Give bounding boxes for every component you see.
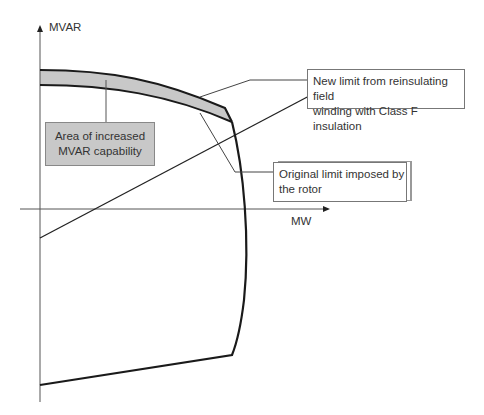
original-limit-callout: Original limit imposed by the rotor <box>273 162 407 202</box>
area-callout-line2: MVAR capability <box>46 144 154 159</box>
original-limit-callout-line1: Original limit imposed by <box>279 167 406 182</box>
y-axis-label: MVAR <box>49 20 81 34</box>
new-limit-leader-line <box>200 80 307 97</box>
area-callout-line1: Area of increased <box>46 129 154 144</box>
original-limit-callout-line2: the rotor <box>279 182 406 197</box>
capability-diagram <box>0 0 484 415</box>
new-limit-callout: New limit from reinsulating field windin… <box>307 69 465 109</box>
x-axis-arrow-icon <box>323 206 330 212</box>
new-limit-callout-line2: winding with Class F insulation <box>313 104 464 134</box>
new-limit-callout-line1: New limit from reinsulating field <box>313 74 464 104</box>
area-callout: Area of increased MVAR capability <box>45 122 155 166</box>
y-axis-arrow-icon <box>37 25 43 32</box>
x-axis-label: MW <box>291 214 311 228</box>
